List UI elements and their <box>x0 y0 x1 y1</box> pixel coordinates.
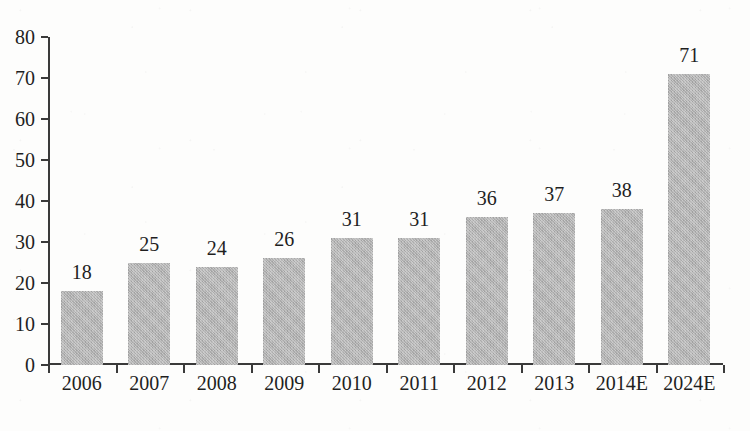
y-axis-tick-label: 20 <box>15 273 35 293</box>
x-axis-tick <box>723 365 725 373</box>
x-axis-tick <box>48 365 50 373</box>
bar-group: 382014E <box>588 37 656 365</box>
bar-group: 372013 <box>521 37 589 365</box>
x-axis-category-label: 2024E <box>663 373 715 393</box>
x-axis-tick <box>656 365 658 373</box>
x-axis-category-label: 2010 <box>332 373 372 393</box>
y-axis-tick-label: 80 <box>15 27 35 47</box>
bar[interactable] <box>466 217 508 365</box>
x-axis-category-label: 2013 <box>534 373 574 393</box>
x-axis-category-label: 2012 <box>467 373 507 393</box>
bar[interactable] <box>601 209 643 365</box>
bar-group: 312011 <box>386 37 454 365</box>
y-axis-tick-label: 10 <box>15 314 35 334</box>
x-axis-tick <box>521 365 523 373</box>
chart-page: 01020304050607080 1820062520072420082620… <box>0 0 750 431</box>
bar[interactable] <box>263 258 305 365</box>
bar[interactable] <box>128 263 170 366</box>
bar-value-label: 38 <box>612 180 632 200</box>
bar-value-label: 31 <box>409 209 429 229</box>
bar[interactable] <box>533 213 575 365</box>
bar[interactable] <box>668 74 710 365</box>
x-axis-tick <box>318 365 320 373</box>
x-axis-category-label: 2007 <box>129 373 169 393</box>
y-axis-tick: 20 <box>41 282 48 284</box>
x-axis-category-label: 2008 <box>197 373 237 393</box>
y-axis-tick: 60 <box>41 118 48 120</box>
x-axis-tick <box>386 365 388 373</box>
y-axis-tick: 50 <box>41 159 48 161</box>
y-axis-tick-label: 30 <box>15 232 35 252</box>
x-axis-category-label: 2011 <box>400 373 439 393</box>
x-axis-tick <box>588 365 590 373</box>
x-axis-tick <box>183 365 185 373</box>
y-axis-tick: 40 <box>41 200 48 202</box>
bar-value-label: 18 <box>72 262 92 282</box>
bar-group: 252007 <box>116 37 184 365</box>
bar-value-label: 31 <box>342 209 362 229</box>
bar[interactable] <box>196 267 238 365</box>
bar-group: 262009 <box>251 37 319 365</box>
x-axis-tick <box>251 365 253 373</box>
bar-value-label: 71 <box>679 45 699 65</box>
bar-group: 312010 <box>318 37 386 365</box>
bar-value-label: 25 <box>139 234 159 254</box>
bar-group: 242008 <box>183 37 251 365</box>
x-axis-category-label: 2009 <box>264 373 304 393</box>
bar[interactable] <box>398 238 440 365</box>
x-axis-category-label: 2014E <box>596 373 648 393</box>
y-axis-tick-label: 40 <box>15 191 35 211</box>
y-axis-tick: 30 <box>41 241 48 243</box>
y-axis-tick-label: 70 <box>15 68 35 88</box>
bar-value-label: 36 <box>477 188 497 208</box>
y-axis-tick-label: 0 <box>25 355 35 375</box>
y-axis-tick: 80 <box>41 36 48 38</box>
bar-group: 182006 <box>48 37 116 365</box>
bar-value-label: 24 <box>207 238 227 258</box>
bar[interactable] <box>61 291 103 365</box>
x-axis-category-label: 2006 <box>62 373 102 393</box>
bar-value-label: 37 <box>544 184 564 204</box>
y-axis-tick: 10 <box>41 323 48 325</box>
x-axis-tick <box>116 365 118 373</box>
bar-group: 712024E <box>656 37 724 365</box>
bar-value-label: 26 <box>274 229 294 249</box>
y-axis-tick-label: 60 <box>15 109 35 129</box>
plot-area: 01020304050607080 1820062520072420082620… <box>48 37 723 365</box>
x-axis-tick <box>453 365 455 373</box>
y-axis-tick: 0 <box>41 364 48 366</box>
y-axis-tick: 70 <box>41 77 48 79</box>
bar-group: 362012 <box>453 37 521 365</box>
y-axis-tick-label: 50 <box>15 150 35 170</box>
bar[interactable] <box>331 238 373 365</box>
